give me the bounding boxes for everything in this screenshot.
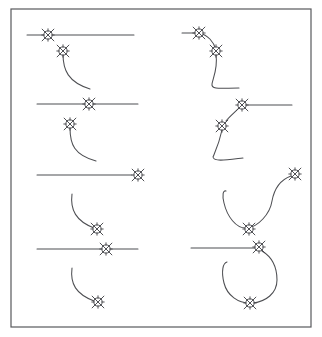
node-marker-on-line xyxy=(193,27,205,39)
node-marker-curve-end xyxy=(92,296,104,308)
node-marker-on-line xyxy=(253,241,265,253)
node-marker-on-line xyxy=(42,29,54,41)
node-marker-on-line xyxy=(100,243,112,255)
node-marker-curve-start xyxy=(64,118,76,130)
node-marker-bottom xyxy=(243,223,255,235)
node-marker-curve-start xyxy=(57,45,69,57)
node-marker-curve-end xyxy=(91,223,103,235)
figure-frame xyxy=(11,9,311,327)
figure-root xyxy=(0,0,322,337)
node-marker-curve-mid xyxy=(216,120,228,132)
node-marker-curve-mid xyxy=(210,45,222,57)
node-marker-on-line xyxy=(132,169,144,181)
curve-diagram-canvas xyxy=(0,0,322,337)
node-marker-on-line xyxy=(236,99,248,111)
node-marker-bottom xyxy=(244,297,256,309)
node-marker-on-line xyxy=(83,98,95,110)
node-marker-top xyxy=(289,168,301,180)
